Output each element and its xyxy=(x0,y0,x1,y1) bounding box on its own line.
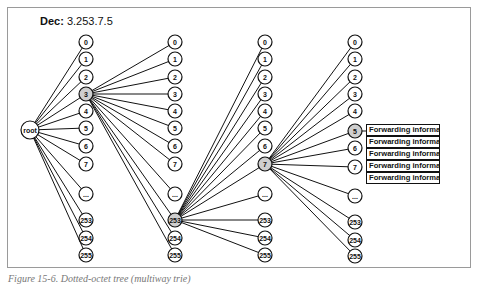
trie-node: 255 xyxy=(258,248,272,262)
edge xyxy=(86,77,175,94)
svg-text:...: ... xyxy=(262,191,268,198)
forwarding-information-entry: Forwarding information xyxy=(366,160,440,172)
svg-text:7: 7 xyxy=(84,161,88,168)
trie-node: 254 xyxy=(168,231,182,245)
svg-text:3: 3 xyxy=(173,91,177,98)
edge xyxy=(30,94,86,130)
svg-text:254: 254 xyxy=(259,235,271,242)
svg-text:...: ... xyxy=(83,191,89,198)
edge xyxy=(86,94,175,128)
edge xyxy=(175,128,265,220)
edge xyxy=(265,59,355,164)
trie-node: 0 xyxy=(79,35,93,49)
svg-text:4: 4 xyxy=(353,108,357,115)
svg-text:4: 4 xyxy=(173,108,177,115)
svg-text:5: 5 xyxy=(263,125,267,132)
svg-text:2: 2 xyxy=(173,74,177,81)
svg-text:5: 5 xyxy=(173,125,177,132)
forwarding-information-entry: Forwarding information xyxy=(366,148,440,160)
svg-text:255: 255 xyxy=(80,252,92,259)
trie-node: 7 xyxy=(258,157,272,171)
root-node: root xyxy=(21,121,39,139)
svg-text:0: 0 xyxy=(84,39,88,46)
svg-text:253: 253 xyxy=(169,217,181,224)
svg-text:6: 6 xyxy=(263,143,267,150)
svg-text:5: 5 xyxy=(353,128,357,135)
trie-node: 2 xyxy=(168,70,182,84)
forwarding-information-entry: Forwarding information xyxy=(366,124,440,136)
svg-text:253: 253 xyxy=(80,217,92,224)
trie-node: 4 xyxy=(348,104,362,118)
edge xyxy=(86,94,175,164)
svg-text:...: ... xyxy=(352,193,358,200)
svg-text:7: 7 xyxy=(173,161,177,168)
trie-node: 254 xyxy=(79,231,93,245)
trie-node: 1 xyxy=(168,52,182,66)
trie-node: 3 xyxy=(258,87,272,101)
trie-node: 3 xyxy=(348,87,362,101)
edge xyxy=(30,130,86,255)
trie-node: 253 xyxy=(348,215,362,229)
svg-text:255: 255 xyxy=(349,253,361,260)
forwarding-information-entry: Forwarding information xyxy=(366,172,440,184)
trie-node: 0 xyxy=(348,35,362,49)
ellipsis-node: ... xyxy=(258,187,272,201)
svg-text:3: 3 xyxy=(263,91,267,98)
svg-text:1: 1 xyxy=(173,56,177,63)
edge xyxy=(175,59,265,220)
edge xyxy=(265,77,355,164)
svg-text:253: 253 xyxy=(349,219,361,226)
trie-node: 5 xyxy=(258,121,272,135)
trie-node: 4 xyxy=(258,104,272,118)
svg-text:254: 254 xyxy=(349,237,361,244)
edge xyxy=(265,164,355,222)
trie-node: 6 xyxy=(258,139,272,153)
ellipsis-node: ... xyxy=(168,187,182,201)
svg-text:7: 7 xyxy=(263,161,267,168)
trie-node: 255 xyxy=(348,249,362,263)
edge xyxy=(175,164,265,220)
trie-node: 1 xyxy=(348,52,362,66)
trie-node: 253 xyxy=(168,213,182,227)
forwarding-information-entry: Forwarding information xyxy=(366,136,440,148)
trie-node: 0 xyxy=(258,35,272,49)
svg-text:253: 253 xyxy=(259,217,271,224)
svg-text:1: 1 xyxy=(84,56,88,63)
trie-node: 255 xyxy=(79,248,93,262)
edge xyxy=(30,77,86,130)
svg-text:6: 6 xyxy=(84,143,88,150)
edge xyxy=(265,164,355,167)
svg-text:1: 1 xyxy=(353,56,357,63)
trie-node: 5 xyxy=(348,124,362,138)
trie-node: 1 xyxy=(79,52,93,66)
edge xyxy=(86,59,175,94)
svg-text:6: 6 xyxy=(353,145,357,152)
edge xyxy=(30,59,86,130)
svg-text:255: 255 xyxy=(259,252,271,259)
trie-node: 254 xyxy=(258,231,272,245)
figure-caption: Figure 15-6. Dotted-octet tree (multiway… xyxy=(8,273,191,284)
trie-node: 2 xyxy=(258,70,272,84)
trie-node: 7 xyxy=(79,157,93,171)
svg-text:5: 5 xyxy=(84,125,88,132)
edge xyxy=(175,220,265,238)
svg-text:3: 3 xyxy=(353,91,357,98)
trie-node: 0 xyxy=(168,35,182,49)
ellipsis-node: ... xyxy=(79,187,93,201)
edge xyxy=(265,164,355,240)
edge xyxy=(265,94,355,164)
svg-text:0: 0 xyxy=(263,39,267,46)
trie-node: 253 xyxy=(79,213,93,227)
svg-text:root: root xyxy=(23,127,37,134)
svg-text:3: 3 xyxy=(84,91,88,98)
trie-node: 7 xyxy=(348,160,362,174)
svg-text:...: ... xyxy=(172,191,178,198)
trie-node: 1 xyxy=(258,52,272,66)
trie-node: 7 xyxy=(168,157,182,171)
svg-text:254: 254 xyxy=(169,235,181,242)
edge xyxy=(86,42,175,94)
trie-node: 6 xyxy=(168,139,182,153)
trie-node: 254 xyxy=(348,233,362,247)
svg-text:6: 6 xyxy=(173,143,177,150)
svg-text:254: 254 xyxy=(80,235,92,242)
